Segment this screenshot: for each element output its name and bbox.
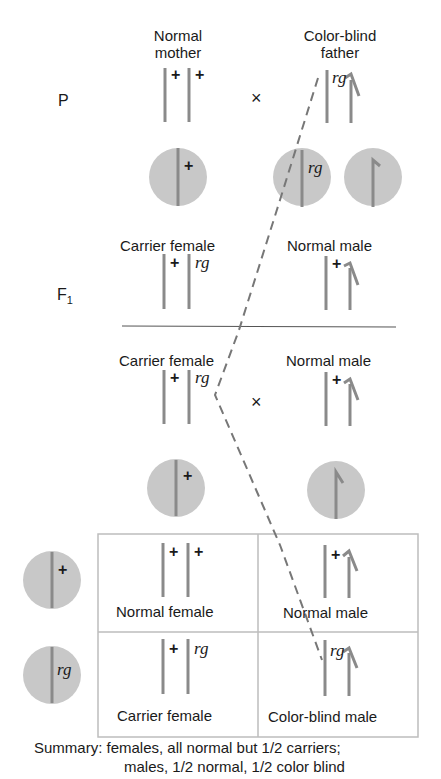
f1-female-gamete-allele: + bbox=[183, 467, 192, 485]
cell4-label: Color-blind male bbox=[268, 708, 377, 725]
cell1-allele-2: + bbox=[194, 543, 203, 561]
cell2-label: Normal male bbox=[283, 604, 368, 621]
cell3-label: Carrier female bbox=[117, 707, 212, 724]
f1cross-female-label: Carrier female bbox=[119, 352, 214, 369]
cell4-allele: rg bbox=[330, 641, 345, 661]
mother-label: Normalmother bbox=[150, 27, 206, 61]
cell3-allele-2: rg bbox=[194, 639, 209, 659]
summary-line-2: males, 1/2 normal, 1/2 color blind bbox=[34, 757, 345, 776]
f1-female-label: Carrier female bbox=[120, 237, 215, 254]
cell3-allele-1: + bbox=[169, 640, 178, 658]
generation-p-label: P bbox=[58, 92, 69, 110]
f1-female-allele-1: + bbox=[170, 254, 179, 272]
row-gamete-1: + bbox=[58, 561, 67, 579]
cross-symbol: × bbox=[251, 88, 262, 109]
summary-line-1: Summary: females, all normal but 1/2 car… bbox=[34, 738, 345, 757]
summary: Summary: females, all normal but 1/2 car… bbox=[34, 738, 345, 776]
father-label: Color-blindfather bbox=[290, 27, 390, 61]
f1cross-female-allele-2: rg bbox=[195, 368, 210, 388]
f1-female-allele-2: rg bbox=[195, 253, 210, 273]
f1-male-allele: + bbox=[332, 255, 341, 273]
father-gamete-allele: rg bbox=[308, 158, 323, 178]
f1cross-male-label: Normal male bbox=[286, 352, 371, 369]
f1cross-male-allele: + bbox=[332, 371, 341, 389]
cell2-allele: + bbox=[331, 546, 340, 564]
mother-allele-1: + bbox=[171, 66, 180, 84]
f1-cross-symbol: × bbox=[251, 392, 262, 413]
row-gamete-2: rg bbox=[57, 660, 72, 680]
father-allele: rg bbox=[332, 68, 347, 88]
cell1-allele-1: + bbox=[169, 543, 178, 561]
f1cross-female-allele-1: + bbox=[170, 369, 179, 387]
generation-f1-label: F1 bbox=[57, 286, 73, 306]
mother-allele-2: + bbox=[195, 66, 204, 84]
f1-male-label: Normal male bbox=[287, 237, 372, 254]
cell1-label: Normal female bbox=[116, 603, 214, 620]
mother-gamete-allele: + bbox=[184, 157, 193, 175]
